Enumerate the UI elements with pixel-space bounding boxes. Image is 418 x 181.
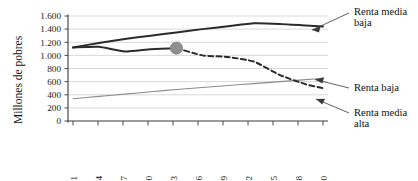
- y-tick-label: 600: [47, 77, 61, 87]
- gridlines: [68, 16, 328, 121]
- annotation-renta-media-baja-line1: Renta media: [354, 6, 408, 17]
- x-tick-label: 1981: [69, 176, 79, 181]
- x-tick-label: 2005: [269, 176, 279, 181]
- annotation-renta-media-baja-line2: baja: [354, 17, 372, 28]
- x-tick-label: 1987: [119, 176, 129, 181]
- y-tick-label: 1.400: [40, 24, 61, 34]
- transition-marker-dot: [170, 42, 182, 54]
- annotation-renta-media-alta-line1: Renta media: [354, 107, 408, 118]
- chart-figure: 1.600 1.400 1.200 1.000 800 600 400 200 …: [0, 0, 418, 181]
- annotation-renta-baja-line1: Renta baja: [354, 82, 399, 93]
- x-tick-labels: 1981 1984 1987 1990 1993 1996 1999 2002 …: [69, 176, 329, 181]
- y-tick-labels: 1.600 1.400 1.200 1.000 800 600 400 200 …: [40, 11, 61, 126]
- x-tick-marks: [73, 121, 323, 126]
- x-tick-label: 2008: [294, 176, 304, 181]
- y-tick-label: 400: [47, 90, 61, 100]
- y-tick-label: 0: [56, 116, 61, 126]
- data-series: [73, 23, 323, 99]
- y-axis-title: Millones de pobres: [12, 35, 25, 124]
- x-tick-label: 2010: [319, 176, 329, 181]
- annotation-labels: Renta media baja Renta baja Renta media …: [354, 6, 408, 129]
- x-tick-label: 2002: [244, 176, 254, 181]
- series-line-renta-media-alta-solid: [73, 47, 176, 52]
- y-tick-label: 1.000: [40, 51, 61, 61]
- annotation-leaders: [312, 13, 349, 113]
- annotation-renta-media-alta-line2: alta: [354, 118, 370, 129]
- x-tick-label: 1990: [144, 176, 154, 181]
- y-tick-label: 800: [47, 64, 61, 74]
- y-tick-label: 1.200: [40, 38, 61, 48]
- series-line-renta-media-baja: [73, 23, 323, 47]
- x-tick-label: 1999: [219, 176, 229, 181]
- y-tick-label: 1.600: [40, 11, 61, 21]
- x-tick-label: 1996: [194, 176, 204, 181]
- line-chart-svg: 1.600 1.400 1.200 1.000 800 600 400 200 …: [0, 0, 418, 181]
- x-tick-label: 1984: [94, 176, 104, 181]
- y-tick-label: 200: [47, 103, 61, 113]
- x-tick-label: 1993: [169, 176, 179, 181]
